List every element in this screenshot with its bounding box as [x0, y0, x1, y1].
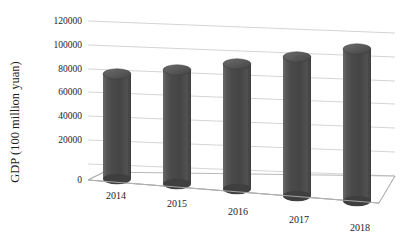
bar-2014[interactable] — [103, 69, 131, 184]
y-axis-title-text: GDP (100 million yuan) — [8, 61, 22, 182]
y-tick-label: 20000 — [58, 135, 82, 145]
bars — [103, 44, 371, 206]
x-tick-label-2016: 2016 — [228, 206, 248, 217]
x-tick-label-2018: 2018 — [350, 222, 370, 233]
gdp-bar-chart: 120000 100000 80000 60000 40000 20000 0 … — [0, 0, 411, 246]
x-axis-ticks: 2014 2015 2016 2017 2018 — [106, 190, 370, 233]
y-axis-title: GDP (100 million yuan) — [8, 61, 22, 182]
y-axis-ticks: 120000 100000 80000 60000 40000 20000 0 — [54, 16, 83, 185]
x-tick-label-2014: 2014 — [106, 190, 126, 201]
bar-2015[interactable] — [163, 65, 191, 189]
bar-2016[interactable] — [223, 59, 251, 194]
y-tick-label: 0 — [77, 175, 82, 185]
x-tick-label-2017: 2017 — [289, 214, 309, 225]
y-tick-label: 100000 — [54, 40, 83, 50]
y-tick-label: 80000 — [58, 64, 82, 74]
y-tick-label: 120000 — [54, 16, 83, 26]
x-tick-label-2015: 2015 — [167, 198, 187, 209]
bar-2017[interactable] — [283, 52, 311, 201]
y-tick-label: 60000 — [58, 87, 82, 97]
bar-2018[interactable] — [343, 44, 371, 206]
y-tick-label: 40000 — [58, 111, 82, 121]
chart-canvas: 120000 100000 80000 60000 40000 20000 0 … — [0, 0, 411, 246]
